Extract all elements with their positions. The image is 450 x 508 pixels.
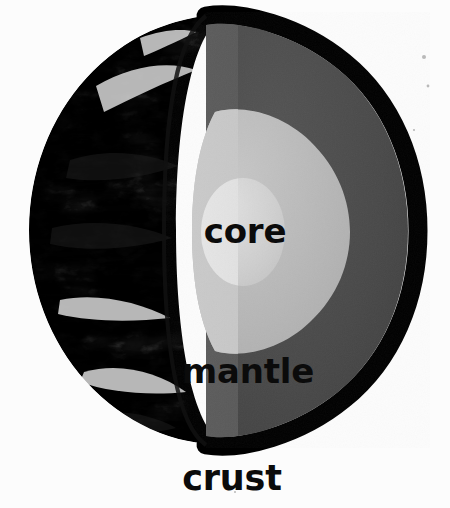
core-label: core xyxy=(0,212,450,250)
mantle-label: mantle xyxy=(0,352,450,390)
crust-label: crust xyxy=(0,458,450,498)
earth-cutaway-diagram: core mantle crust xyxy=(0,0,450,508)
earth-cutaway-illustration xyxy=(0,0,450,508)
